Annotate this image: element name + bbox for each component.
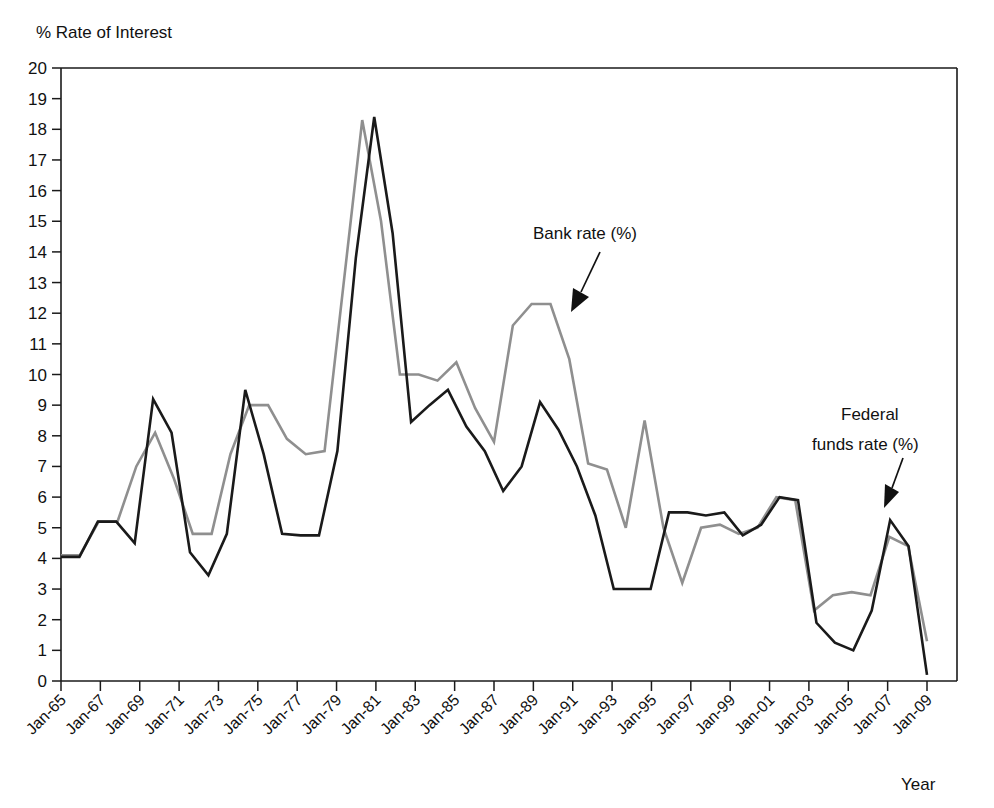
x-tick-label: Jan-09	[889, 691, 936, 738]
y-tick-label: 5	[38, 519, 47, 538]
x-tick-label: Jan-75	[219, 691, 266, 738]
y-tick-label: 15	[28, 212, 47, 231]
y-tick-label: 19	[28, 90, 47, 109]
x-tick-label: Jan-83	[377, 691, 424, 738]
x-tick-label: Jan-69	[101, 691, 148, 738]
x-tick-label: Jan-91	[534, 691, 581, 738]
chart-canvas: % Rate of Interest 201918171615141312111…	[0, 0, 994, 808]
y-tick-label: 7	[38, 457, 47, 476]
x-tick-label: Jan-03	[770, 691, 817, 738]
x-tick-label: Jan-87	[456, 691, 503, 738]
y-axis-ticks: 20191817161514131211109876543210	[28, 59, 61, 691]
x-tick-label: Jan-01	[731, 691, 778, 738]
interest-rate-chart: % Rate of Interest 201918171615141312111…	[0, 0, 994, 808]
x-axis-ticks: Jan-65Jan-67Jan-69Jan-71Jan-73Jan-75Jan-…	[23, 681, 936, 738]
annotation-bank-rate-label: Bank rate (%)	[533, 224, 637, 243]
y-tick-label: 11	[29, 335, 47, 354]
y-tick-label: 12	[28, 304, 47, 323]
x-tick-label: Jan-05	[810, 691, 857, 738]
annotation-federal-funds-label-line2: funds rate (%)	[812, 435, 919, 454]
annotation-federal-funds-arrow-line	[892, 458, 903, 488]
y-tick-label: 13	[28, 274, 47, 293]
y-tick-label: 0	[38, 672, 47, 691]
annotation-federal-funds-label-line1: Federal	[841, 405, 899, 424]
x-tick-label: Jan-73	[180, 691, 227, 738]
series-lines	[61, 117, 927, 675]
y-tick-label: 17	[28, 151, 47, 170]
series-line-bank-rate	[61, 120, 927, 641]
x-tick-label: Jan-85	[416, 691, 463, 738]
series-line-federal-funds-rate	[61, 117, 927, 675]
x-tick-label: Jan-81	[337, 691, 384, 738]
y-tick-label: 8	[38, 427, 47, 446]
annotation-federal-funds-rate: Federal funds rate (%)	[812, 405, 919, 508]
x-tick-label: Jan-67	[62, 691, 109, 738]
y-tick-label: 16	[28, 182, 47, 201]
y-tick-label: 10	[28, 366, 47, 385]
y-tick-label: 20	[28, 59, 47, 78]
y-axis-title: % Rate of Interest	[36, 23, 172, 42]
x-tick-label: Jan-89	[495, 691, 542, 738]
annotation-bank-rate: Bank rate (%)	[533, 224, 637, 312]
y-tick-label: 18	[28, 120, 47, 139]
y-tick-label: 14	[28, 243, 47, 262]
y-tick-label: 1	[38, 641, 47, 660]
x-axis-title: Year	[901, 775, 936, 794]
y-tick-label: 2	[38, 611, 47, 630]
x-tick-label: Jan-07	[849, 691, 896, 738]
y-tick-label: 6	[38, 488, 47, 507]
x-tick-label: Jan-99	[692, 691, 739, 738]
y-tick-label: 4	[38, 549, 47, 568]
annotation-bank-rate-arrow-line	[581, 252, 600, 292]
x-tick-label: Jan-79	[298, 691, 345, 738]
y-tick-label: 3	[38, 580, 47, 599]
x-tick-label: Jan-93	[574, 691, 621, 738]
y-tick-label: 9	[38, 396, 47, 415]
x-tick-label: Jan-95	[613, 691, 660, 738]
x-tick-label: Jan-71	[141, 691, 188, 738]
x-tick-label: Jan-77	[259, 691, 306, 738]
x-tick-label: Jan-65	[23, 691, 70, 738]
x-tick-label: Jan-97	[652, 691, 699, 738]
annotation-bank-rate-arrow-head	[571, 288, 589, 312]
